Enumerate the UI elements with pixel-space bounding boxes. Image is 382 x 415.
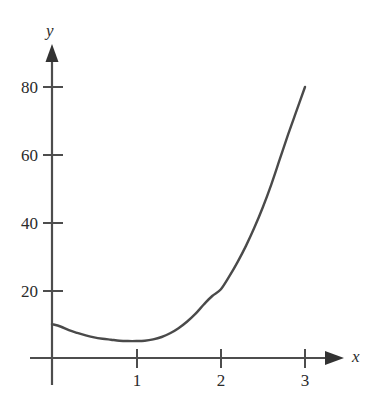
data-curve-line bbox=[52, 87, 305, 341]
chart-figure: 80 60 40 20 1 2 3 y x bbox=[0, 0, 382, 415]
y-tick-label-60: 60 bbox=[0, 147, 38, 164]
x-axis-label: x bbox=[352, 348, 360, 365]
y-tick-label-20: 20 bbox=[0, 283, 38, 300]
x-tick-label-2: 2 bbox=[209, 372, 233, 389]
y-axis-label: y bbox=[46, 22, 54, 39]
y-tick-label-40: 40 bbox=[0, 215, 38, 232]
x-axis-arrowhead bbox=[325, 351, 344, 365]
y-tick-label-80: 80 bbox=[0, 79, 38, 96]
x-tick-label-3: 3 bbox=[293, 372, 317, 389]
plot-canvas bbox=[0, 0, 382, 415]
x-tick-label-1: 1 bbox=[125, 372, 149, 389]
y-axis-arrowhead bbox=[46, 44, 59, 62]
